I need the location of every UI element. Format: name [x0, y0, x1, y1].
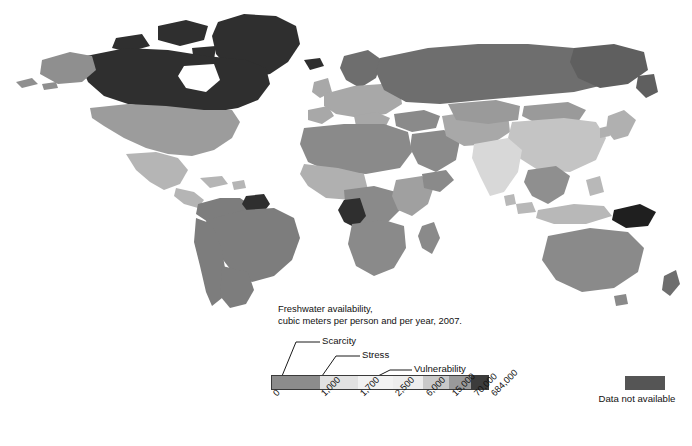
no-data-legend: Data not available [600, 376, 690, 404]
callout-label-scarcity: Scarcity [322, 335, 356, 346]
leader-line-scarcity [282, 342, 320, 376]
legend-callouts: Scarcity Stress Vulnerability [278, 330, 508, 378]
region-tasmania [614, 294, 628, 306]
leader-line-stress [322, 356, 360, 376]
callout-label-vulnerability: Vulnerability [414, 363, 466, 374]
no-data-label: Data not available [592, 393, 682, 404]
colorbar-band-0 [272, 376, 320, 389]
legend-title-block: Freshwater availability, cubic meters pe… [278, 303, 508, 326]
world-choropleth-svg [8, 4, 684, 310]
world-map-figure: Freshwater availability, cubic meters pe… [0, 0, 692, 446]
callout-leader-lines [278, 330, 508, 378]
region-sri-lanka [504, 194, 516, 206]
callout-label-stress: Stress [362, 349, 389, 360]
legend-title-line2: cubic meters per person and per year, 20… [278, 315, 508, 327]
legend-tick-labels: 01,0001,7002,5006,00015,00070,000684,000 [271, 391, 531, 441]
no-data-swatch [625, 376, 665, 390]
legend-title-line1: Freshwater availability, [278, 303, 508, 315]
